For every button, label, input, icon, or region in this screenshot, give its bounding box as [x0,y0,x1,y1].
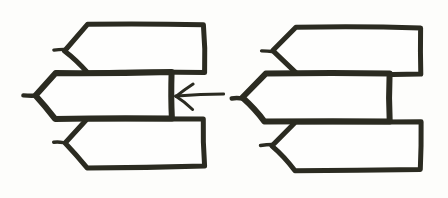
left-middle-banner [23,72,172,119]
right-bottom-banner-tip-stub [261,145,273,146]
left-middle-banner-fill [36,72,172,119]
left-bottom-banner-tip-stub [54,142,64,143]
left-top-banner-fill [64,25,204,72]
banner-shapes-layer [23,24,421,171]
left-pointing-arrow [176,84,224,110]
hand-drawn-diagram [0,0,448,198]
right-bottom-banner-fill [272,122,420,170]
right-middle-banner [232,73,390,122]
left-top-banner-tip-stub [54,49,64,50]
left-bottom-banner-fill [64,119,204,167]
annotation-arrows-layer [176,84,224,110]
left-top-banner [54,24,205,73]
sketch-canvas [0,0,448,198]
right-top-banner-tip-stub [262,51,272,52]
left-bottom-banner [54,119,205,168]
left-pointing-arrow-shaft [177,94,224,96]
right-bottom-banner [261,122,422,171]
right-top-banner [262,27,421,75]
left-pointing-arrow-head-lower [176,96,193,109]
right-top-banner-fill [272,27,420,74]
right-middle-banner-fill [243,74,390,122]
